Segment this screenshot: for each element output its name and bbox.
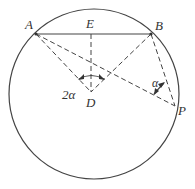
segment-bd [91,34,151,92]
label-d: D [85,95,96,110]
label-inscribed-angle: α [152,76,159,90]
label-central-angle: 2α [62,87,77,102]
label-a: A [24,17,33,32]
arrowhead-left [78,74,84,80]
label-e: E [85,16,94,31]
point-a-dot [34,32,37,35]
arrowhead-right [99,74,105,80]
segment-ad [36,34,91,92]
label-p: P [177,103,186,118]
arrowhead-alpha-upper [158,82,165,88]
label-b: B [155,18,163,33]
point-b-dot [149,32,152,35]
diagram-canvas: A E B D P 2α α [0,0,195,189]
